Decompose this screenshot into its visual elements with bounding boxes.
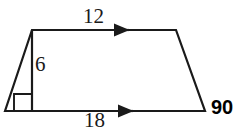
height-length-label: 6 [35,54,46,75]
bottom-side-length-label: 18 [84,110,105,129]
angle-measure-label: 90 [211,97,233,117]
geometry-figure: 12 6 18 90 [0,0,244,129]
top-arrow-icon [114,24,130,37]
top-side-length-label: 12 [83,6,104,27]
right-angle-icon [14,94,31,111]
bottom-arrow-icon [118,105,134,118]
